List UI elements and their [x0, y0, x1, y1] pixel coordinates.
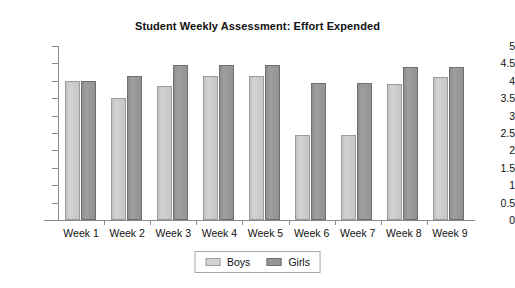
bar-boys [433, 77, 448, 220]
y-axis-tick-label: 5 [469, 40, 515, 52]
legend-swatch-boys [205, 258, 220, 266]
x-axis-separator [150, 220, 151, 225]
x-axis-label-5: Week 5 [242, 227, 288, 239]
x-axis-label-8: Week 8 [381, 227, 427, 239]
x-axis-separator [289, 220, 290, 225]
bar-girls [311, 83, 326, 220]
bar-girls [219, 65, 234, 220]
y-axis-tick-label: 0.5 [469, 197, 515, 209]
x-axis-label-1: Week 1 [58, 227, 104, 239]
bar-girls [357, 83, 372, 220]
bar-boys [387, 84, 402, 220]
y-axis-tick-label: 3 [469, 110, 515, 122]
bar-group [150, 46, 196, 220]
x-axis-label-4: Week 4 [196, 227, 242, 239]
bar-group [58, 46, 104, 220]
bar-girls [449, 67, 464, 220]
x-axis-label-6: Week 6 [289, 227, 335, 239]
x-axis-separator [427, 220, 428, 225]
chart-title: Student Weekly Assessment: Effort Expend… [0, 20, 515, 32]
bar-group [104, 46, 150, 220]
chart-legend: BoysGirls [194, 251, 321, 273]
bar-girls [403, 67, 418, 220]
y-axis-tick-label: 2.5 [469, 127, 515, 139]
bar-group [196, 46, 242, 220]
x-axis-separator [242, 220, 243, 225]
y-axis-tick-label: 4.5 [469, 57, 515, 69]
bar-group [242, 46, 288, 220]
x-axis-separator [381, 220, 382, 225]
y-axis-tick-label: 0 [469, 214, 515, 226]
y-axis-tick-label: 2 [469, 144, 515, 156]
bar-boys [111, 98, 126, 220]
bar-girls [127, 76, 142, 220]
bar-boys [249, 76, 264, 220]
bar-boys [203, 76, 218, 220]
bar-boys [65, 81, 80, 220]
y-axis-tick-label: 1.5 [469, 162, 515, 174]
x-axis-label-7: Week 7 [335, 227, 381, 239]
legend-item-girls: Girls [266, 256, 310, 268]
legend-swatch-girls [266, 258, 281, 266]
x-axis-separator [335, 220, 336, 225]
bar-chart: Student Weekly Assessment: Effort Expend… [0, 0, 515, 288]
bar-girls [265, 65, 280, 220]
legend-item-boys: Boys [205, 256, 250, 268]
bar-girls [81, 81, 96, 220]
x-axis-label-2: Week 2 [104, 227, 150, 239]
bar-girls [173, 65, 188, 220]
x-axis-label-3: Week 3 [150, 227, 196, 239]
bar-boys [157, 86, 172, 220]
plot-area [58, 46, 473, 220]
x-axis-separator [196, 220, 197, 225]
x-axis-label-9: Week 9 [427, 227, 473, 239]
y-axis-tick-label: 4 [469, 75, 515, 87]
bar-boys [295, 135, 310, 220]
bar-group [381, 46, 427, 220]
y-axis-tick-label: 1 [469, 179, 515, 191]
legend-label-boys: Boys [227, 256, 250, 268]
bar-group [289, 46, 335, 220]
bar-group [427, 46, 473, 220]
x-axis-line [44, 220, 475, 221]
bar-group [335, 46, 381, 220]
bar-boys [341, 135, 356, 220]
y-axis-tick-label: 3.5 [469, 92, 515, 104]
x-axis-separator [104, 220, 105, 225]
legend-label-girls: Girls [288, 256, 310, 268]
